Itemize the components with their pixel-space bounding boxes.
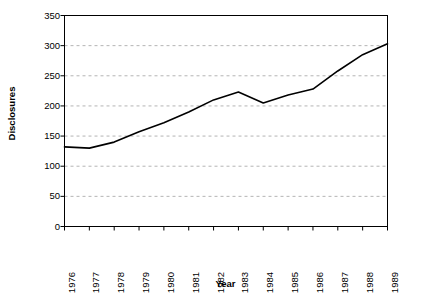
x-tick-label: 1989 bbox=[383, 232, 422, 244]
x-axis-tick-labels: 1976197719781979198019811982198319841985… bbox=[0, 0, 422, 296]
x-axis-title-label: Year bbox=[215, 278, 235, 289]
line-chart: Disclosures 050100150200250300350 197619… bbox=[0, 0, 422, 296]
x-tick-label-text: 1989 bbox=[389, 272, 401, 293]
x-axis-title: Year bbox=[64, 278, 387, 289]
